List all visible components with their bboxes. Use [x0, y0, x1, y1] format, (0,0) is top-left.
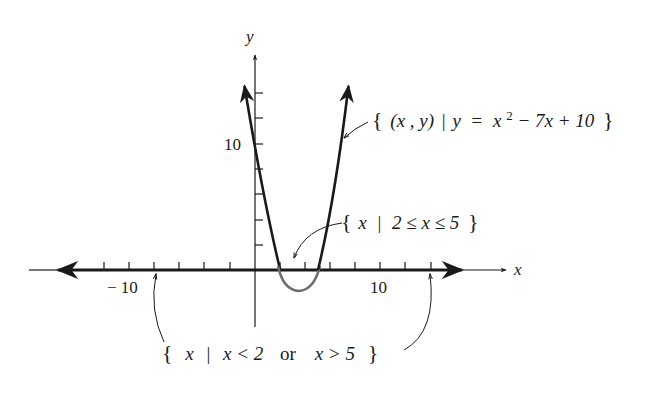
x-tick-label-neg10: − 10 — [107, 278, 138, 297]
ordered-pair: (x , y) — [390, 110, 434, 132]
such-that-bar: | — [378, 212, 382, 233]
exponent: 2 — [506, 108, 513, 123]
such-that-bar: | — [207, 343, 211, 364]
brace-open: { — [372, 107, 383, 132]
leader-arrow-interval-set — [294, 223, 342, 258]
brace-close: } — [603, 107, 614, 132]
interval-condition: 2 ≤ x ≤ 5 — [392, 212, 459, 233]
x-axis-label: x — [513, 260, 522, 279]
condition-a: x < 2 — [222, 343, 264, 364]
var-x: x — [184, 343, 194, 364]
svg-text:{ x | x < 2: { x | x < 2 or x > 5 } — [162, 340, 378, 365]
leader-arrow-right — [404, 274, 431, 350]
brace-close: } — [368, 340, 379, 365]
or-word: or — [280, 343, 297, 364]
such-that-bar: | — [442, 110, 446, 131]
svg-text:{ x | 2 ≤ x: { x | 2 ≤ x ≤ 5 } — [341, 209, 479, 234]
equation-rest: − 7x + 10 — [518, 110, 595, 131]
x-tick-label-10: 10 — [370, 278, 387, 297]
parabola-diagram: x − 10 10 y 10 { (x , y) | — [0, 0, 670, 396]
var-x: x — [492, 110, 502, 131]
leader-arrow-left — [154, 274, 164, 342]
annotation-outside-set: { x | x < 2 or x > 5 } — [154, 274, 431, 365]
parabola-left-branch — [245, 86, 281, 270]
brace-close: } — [468, 209, 479, 234]
parabola-right-branch — [318, 86, 349, 270]
brace-open: { — [341, 209, 352, 234]
x-axis: x − 10 10 — [29, 260, 522, 297]
y-tick-label-10: 10 — [224, 135, 241, 154]
leader-arrow-curve-set — [344, 122, 368, 138]
annotation-curve-set: { (x , y) | y = x 2 − 7x + 10 } — [344, 103, 614, 138]
y-axis: y 10 — [224, 27, 263, 327]
condition-b: x > 5 — [314, 343, 355, 364]
lhs-y: y — [450, 110, 461, 131]
parabola-curve — [245, 86, 349, 291]
y-axis-label: y — [244, 27, 254, 46]
svg-text:{ (x , y) |: { (x , y) | y = x 2 − 7x + 10 } — [372, 103, 614, 132]
equals-sign: = — [472, 110, 483, 131]
brace-open: { — [162, 340, 173, 365]
var-x: x — [357, 212, 367, 233]
